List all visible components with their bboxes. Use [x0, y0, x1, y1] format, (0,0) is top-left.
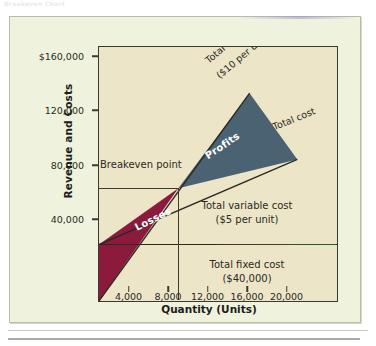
- breakeven-leader-line: [99, 188, 178, 189]
- y-tick-label-40000: 40,000: [14, 214, 84, 225]
- x-tick-label-20000: 20,000: [270, 291, 303, 302]
- x-tick-label-16000: 16,000: [230, 291, 263, 302]
- x-tick-label-8000: 8,000: [154, 291, 181, 302]
- scan-streak: [217, 244, 336, 246]
- y-tick-label-160000: $160,000: [14, 51, 84, 62]
- y-axis-title: Revenue and Costs: [62, 71, 74, 211]
- chart-plot-area: Losses Profits Total revenue ($10 per un…: [98, 46, 338, 302]
- total-variable-cost-label-line2: ($5 per unit): [216, 213, 279, 227]
- total-fixed-cost-label-line2: ($40,000): [222, 272, 271, 286]
- page-divider-1: [8, 330, 368, 331]
- page-divider-2: [8, 338, 360, 340]
- figure-card: Losses Profits Total revenue ($10 per un…: [9, 16, 361, 323]
- total-fixed-cost-label-line1: Total fixed cost: [210, 258, 285, 272]
- x-tick-label-4000: 4,000: [115, 291, 142, 302]
- breakeven-point-label: Breakeven point: [100, 159, 182, 170]
- figure-caption: Breakeven Chart: [4, 0, 65, 7]
- total-variable-cost-label-line1: Total variable cost: [202, 199, 293, 213]
- breakeven-drop-line: [178, 188, 179, 300]
- x-tick-label-12000: 12,000: [191, 291, 224, 302]
- x-axis-title: Quantity (Units): [89, 303, 329, 315]
